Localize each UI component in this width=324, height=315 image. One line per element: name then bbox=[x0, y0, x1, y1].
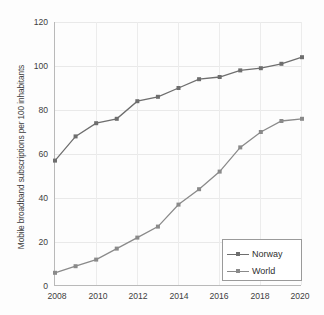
legend-line-icon bbox=[227, 254, 249, 255]
legend-item-norway[interactable]: Norway bbox=[227, 247, 301, 261]
data-point-marker bbox=[218, 75, 222, 79]
x-tick-label: 2010 bbox=[78, 291, 118, 301]
data-point-marker bbox=[238, 145, 242, 149]
data-point-marker bbox=[53, 271, 57, 275]
data-point-marker bbox=[238, 68, 242, 72]
data-point-marker bbox=[156, 225, 160, 229]
data-point-marker bbox=[300, 117, 304, 121]
chart-container: Mobile broadband subscriptions per 100 i… bbox=[0, 0, 324, 315]
legend-label: Norway bbox=[252, 249, 283, 259]
data-point-marker bbox=[135, 236, 139, 240]
series-markers-norway bbox=[53, 55, 304, 162]
y-tick-label: 20 bbox=[20, 237, 48, 247]
legend-line-icon bbox=[227, 271, 249, 272]
x-tick-label: 2008 bbox=[37, 291, 77, 301]
data-point-marker bbox=[94, 121, 98, 125]
y-tick-label: 100 bbox=[20, 61, 48, 71]
x-tick-label: 2014 bbox=[159, 291, 199, 301]
y-tick-label: 60 bbox=[20, 149, 48, 159]
data-point-marker bbox=[177, 86, 181, 90]
y-tick-label: 120 bbox=[20, 17, 48, 27]
data-point-marker bbox=[74, 264, 78, 268]
legend-square-marker-icon bbox=[236, 269, 240, 273]
data-point-marker bbox=[218, 170, 222, 174]
x-tick-label: 2016 bbox=[199, 291, 239, 301]
y-tick-label: 40 bbox=[20, 193, 48, 203]
legend-square-marker-icon bbox=[236, 252, 240, 256]
data-point-marker bbox=[115, 117, 119, 121]
data-point-marker bbox=[259, 66, 263, 70]
legend-label: World bbox=[252, 266, 275, 276]
x-tick-label: 2018 bbox=[240, 291, 280, 301]
data-point-marker bbox=[279, 62, 283, 66]
x-tick-label: 2012 bbox=[118, 291, 158, 301]
data-point-marker bbox=[115, 247, 119, 251]
data-point-marker bbox=[94, 258, 98, 262]
data-point-marker bbox=[177, 203, 181, 207]
data-point-marker bbox=[156, 95, 160, 99]
data-point-marker bbox=[135, 99, 139, 103]
x-tick-label: 2020 bbox=[280, 291, 320, 301]
data-point-marker bbox=[197, 187, 201, 191]
data-point-marker bbox=[53, 159, 57, 163]
chart-legend: Norway World bbox=[222, 239, 302, 281]
data-point-marker bbox=[259, 130, 263, 134]
data-point-marker bbox=[197, 77, 201, 81]
series-line-norway bbox=[55, 57, 302, 160]
data-point-marker bbox=[300, 55, 304, 59]
data-point-marker bbox=[279, 119, 283, 123]
legend-item-world[interactable]: World bbox=[227, 264, 301, 278]
y-tick-label: 80 bbox=[20, 105, 48, 115]
y-tick-label: 0 bbox=[20, 281, 48, 291]
data-point-marker bbox=[74, 134, 78, 138]
